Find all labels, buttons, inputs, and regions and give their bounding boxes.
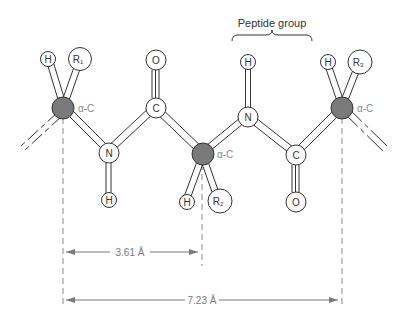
label-c1: C (152, 103, 159, 114)
peptide-group-title: Peptide group (238, 17, 307, 29)
dimension-short: 3.61 Å (66, 246, 198, 258)
bond-n1-hn1 (106, 158, 111, 196)
bond-n2-hn2 (246, 69, 251, 107)
label-h2: H (183, 197, 190, 208)
label-n2: N (244, 112, 251, 123)
bond-ac1-left (21, 112, 62, 150)
label-c2: C (292, 150, 299, 161)
alpha-carbon-2 (192, 143, 214, 165)
label-n1: N (105, 148, 112, 159)
alpha-c-label-2: α-C (217, 149, 233, 160)
bonds (21, 61, 387, 199)
atoms (41, 48, 373, 214)
alpha-c-label-1: α-C (78, 103, 94, 114)
label-h3: H (324, 57, 331, 68)
alpha-c-label-3: α-C (357, 103, 373, 114)
label-o1: O (152, 55, 160, 66)
bond-c2-o2 (292, 165, 299, 192)
peptide-group-annotation: Peptide group (232, 17, 312, 41)
alpha-carbon-1 (52, 97, 74, 119)
label-hn1: H (105, 195, 112, 206)
label-o2: O (292, 197, 300, 208)
label-hn2: H (244, 57, 251, 68)
dimension-long-label: 7.23 Å (188, 294, 217, 306)
peptide-diagram: H R1 N H C O H R2 N H C O H R3 α-C α-C α… (0, 0, 404, 324)
bond-c1-o1 (152, 70, 159, 98)
dimension-long: 7.23 Å (66, 294, 338, 306)
label-h1: H (44, 54, 51, 65)
dimension-short-label: 3.61 Å (116, 246, 145, 258)
alpha-carbon-3 (331, 97, 353, 119)
curly-brace-icon (232, 30, 312, 41)
